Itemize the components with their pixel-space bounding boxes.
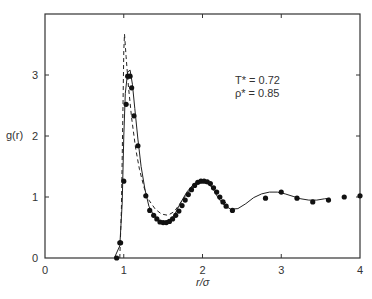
plot-frame (45, 14, 360, 258)
y-tick-label: 3 (32, 69, 38, 81)
data-point (208, 181, 213, 186)
data-point (114, 255, 119, 260)
data-point (186, 192, 191, 197)
y-tick-label: 2 (32, 130, 38, 142)
data-point (129, 85, 134, 90)
data-point (224, 204, 229, 209)
data-point (230, 208, 235, 213)
data-point (310, 199, 315, 204)
y-tick-label: 1 (32, 191, 38, 203)
density-annotation: ρ* = 0.85 (235, 87, 279, 99)
curves (114, 34, 330, 258)
data-point (127, 74, 132, 79)
data-point (131, 113, 136, 118)
data-point (121, 179, 126, 184)
x-tick-label: 0 (42, 264, 48, 276)
data-point (147, 208, 152, 213)
data-point (176, 208, 181, 213)
x-tick-label: 2 (199, 264, 205, 276)
y-tick-label: 0 (32, 252, 38, 264)
data-point (279, 190, 284, 195)
x-tick-label: 1 (121, 264, 127, 276)
data-point (135, 143, 140, 148)
data-point (220, 199, 225, 204)
data-point (173, 213, 178, 218)
x-tick-label: 3 (278, 264, 284, 276)
data-point (211, 185, 216, 190)
data-point (217, 194, 222, 199)
data-point (294, 196, 299, 201)
data-point (124, 102, 129, 107)
data-point (326, 197, 331, 202)
x-tick-label: 4 (357, 264, 363, 276)
solid-curve (114, 70, 330, 258)
x-axis-label: r/σ (196, 276, 210, 288)
data-point (179, 203, 184, 208)
data-point (263, 196, 268, 201)
data-point (342, 194, 347, 199)
data-point (214, 190, 219, 195)
data-point (183, 197, 188, 202)
data-points (114, 74, 363, 261)
axis-ticks: 012340123 (32, 14, 363, 276)
data-point (118, 240, 123, 245)
temperature-annotation: T* = 0.72 (235, 74, 280, 86)
data-point (143, 193, 148, 198)
data-point (189, 187, 194, 192)
y-axis-label: g(r) (6, 129, 23, 141)
data-point (357, 193, 362, 198)
rdf-chart: 012340123 g(r) r/σ T* = 0.72 ρ* = 0.85 (0, 0, 372, 299)
